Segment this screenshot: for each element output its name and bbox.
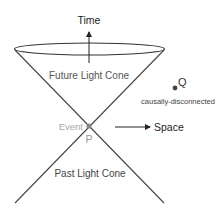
light-cone-diagram: Time Future Light Cone Q causally-discon… [0, 0, 221, 216]
point-q-icon [173, 86, 178, 91]
event-point-label: P [85, 133, 92, 145]
event-label: Event [59, 121, 84, 132]
event-point-icon [86, 123, 91, 128]
future-cone-label: Future Light Cone [49, 70, 129, 81]
causally-disconnected-label: causally-disconnected [141, 97, 215, 106]
time-label: Time [78, 14, 101, 26]
past-cone-label: Past Light Cone [54, 168, 126, 179]
point-q-label: Q [178, 76, 187, 88]
space-label: Space [154, 121, 184, 133]
